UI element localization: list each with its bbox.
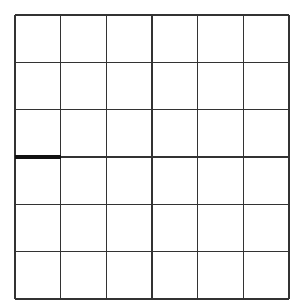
grid-cell[interactable]	[106, 110, 152, 157]
grid-cell[interactable]	[15, 157, 61, 204]
grid-cell[interactable]	[152, 157, 198, 204]
drawn-edge-segment[interactable]	[15, 155, 61, 159]
grid-cell[interactable]	[61, 252, 107, 299]
grid-cell[interactable]	[61, 15, 107, 62]
grid-cell[interactable]	[198, 15, 244, 62]
grid-cell[interactable]	[15, 62, 61, 109]
grid-cell[interactable]	[243, 204, 289, 251]
grid-cell[interactable]	[106, 62, 152, 109]
grid-cell[interactable]	[243, 62, 289, 109]
grid-cell[interactable]	[106, 15, 152, 62]
grid-cell[interactable]	[106, 252, 152, 299]
grid-cell[interactable]	[243, 110, 289, 157]
grid-cell[interactable]	[243, 252, 289, 299]
grid-cell[interactable]	[198, 204, 244, 251]
grid-cell[interactable]	[243, 157, 289, 204]
grid-cell[interactable]	[61, 204, 107, 251]
grid-cell[interactable]	[15, 252, 61, 299]
grid-line-horizontal	[15, 298, 289, 300]
grid-cell[interactable]	[152, 204, 198, 251]
grid-cell[interactable]	[152, 62, 198, 109]
grid-cell[interactable]	[198, 252, 244, 299]
grid-line-horizontal	[15, 62, 289, 64]
grid-cell[interactable]	[106, 204, 152, 251]
grid-cell[interactable]	[152, 110, 198, 157]
grid-cell[interactable]	[106, 157, 152, 204]
grid-cell[interactable]	[61, 62, 107, 109]
grid-cell[interactable]	[15, 110, 61, 157]
grid-cell[interactable]	[198, 62, 244, 109]
grid-line-horizontal	[15, 204, 289, 206]
grid-cell[interactable]	[15, 204, 61, 251]
grid-line-horizontal	[15, 109, 289, 111]
grid-cell[interactable]	[198, 110, 244, 157]
grid-line-horizontal	[15, 14, 289, 16]
grid-cell[interactable]	[152, 252, 198, 299]
game-board	[15, 15, 289, 299]
grid-cell[interactable]	[15, 15, 61, 62]
grid-cell[interactable]	[152, 15, 198, 62]
grid-cell[interactable]	[198, 157, 244, 204]
grid-cell[interactable]	[61, 110, 107, 157]
grid-cell[interactable]	[61, 157, 107, 204]
grid-cell[interactable]	[243, 15, 289, 62]
grid-line-horizontal	[15, 251, 289, 253]
